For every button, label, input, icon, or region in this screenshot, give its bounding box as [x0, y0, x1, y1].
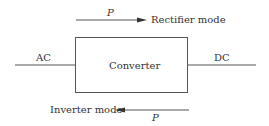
- dc-label: DC: [214, 53, 230, 63]
- inverter-power-label: P: [152, 113, 159, 123]
- converter-label: Converter: [109, 61, 160, 71]
- ac-label: AC: [36, 53, 51, 63]
- rectifier-mode-label: Rectifier mode: [151, 15, 226, 25]
- rectifier-arrow-head: [137, 18, 147, 23]
- rectifier-power-label: P: [107, 8, 114, 18]
- inverter-mode-label: Inverter mode: [50, 105, 122, 115]
